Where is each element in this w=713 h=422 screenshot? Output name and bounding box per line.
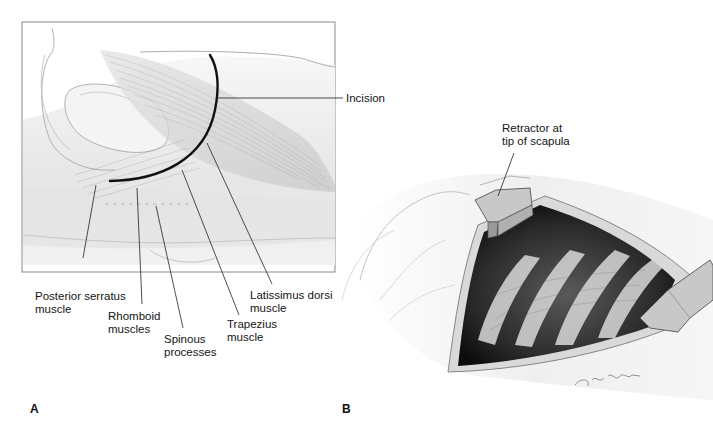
panel-letter-b: B — [342, 402, 351, 416]
label-latissimus: Latissimus dorsi muscle — [250, 289, 332, 315]
panel-letter-a: A — [30, 402, 39, 416]
label-incision: Incision — [346, 92, 385, 105]
label-retractor: Retractor at tip of scapula — [502, 122, 570, 148]
panel-b-illustration — [342, 153, 713, 400]
label-rhomboid: Rhomboid muscles — [108, 310, 160, 336]
panel-a-illustration — [22, 22, 343, 328]
figure: Incision Posterior serratus muscle Rhomb… — [0, 0, 713, 422]
illustration — [0, 0, 713, 422]
label-spinous: Spinous processes — [164, 333, 216, 359]
label-trapezius: Trapezius muscle — [227, 318, 277, 344]
